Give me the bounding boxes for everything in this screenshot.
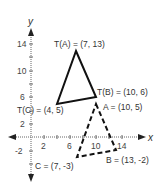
y-axis-label: y xyxy=(27,16,34,27)
image-triangle xyxy=(57,51,96,104)
y-tick-label: 14 xyxy=(17,39,27,49)
vertex-label-TC: T(C) = (4, 5) xyxy=(17,105,64,115)
x-axis xyxy=(8,134,146,140)
vertex-label-A: A = (10, 5) xyxy=(103,102,143,112)
x-tick-label: 14 xyxy=(117,141,127,151)
x-axis-arrow-right-icon xyxy=(138,134,146,140)
y-tick-label: -2 xyxy=(15,146,23,156)
vertex-label-TA: T(A) = (7, 13) xyxy=(54,39,105,49)
y-tick-label: 6 xyxy=(20,92,25,102)
x-tick-label: 2 xyxy=(41,141,46,151)
x-tick-label: 6 xyxy=(67,141,72,151)
y-tick-label: 10 xyxy=(17,66,27,76)
x-axis-label: x xyxy=(147,132,154,143)
y-axis-arrow-down-icon xyxy=(28,174,34,182)
y-tick-label: 2 xyxy=(20,119,25,129)
vertex-label-C: C = (7, -3) xyxy=(35,161,74,171)
vertex-label-B: B = (13, -2) xyxy=(106,155,149,165)
coordinate-plane: y x 14 10 6 2 -2 2 6 10 14 T(A) = (7, 13… xyxy=(0,0,156,188)
y-axis-arrow-up-icon xyxy=(28,28,34,36)
x-axis-arrow-left-icon xyxy=(8,134,16,140)
x-tick-label: 10 xyxy=(91,141,101,151)
vertex-label-TB: T(B) = (10, 6) xyxy=(97,87,148,97)
